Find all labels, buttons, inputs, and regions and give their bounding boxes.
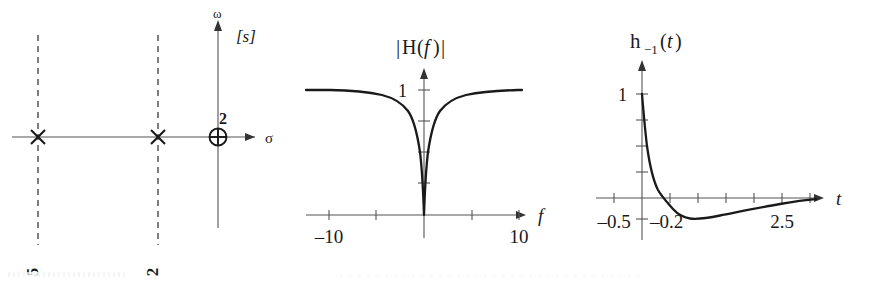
step-response-title: h −1 ( t ) [630, 29, 682, 57]
zero-marker-origin [210, 129, 227, 146]
s-plane-label: [s] [236, 27, 256, 46]
pole-label-2: 2 [143, 268, 162, 277]
magnitude-title-paren-close: ) [433, 36, 440, 59]
magnitude-title: | H ( f ) | [396, 35, 445, 59]
step-title-subscript: −1 [644, 42, 658, 57]
step-response-svg: h −1 ( t ) 1 –0.5 –0.2 2.5 t [580, 0, 873, 285]
f-tick-label-neg10: –10 [314, 226, 344, 247]
amplitude-tick-label-1: 1 [618, 85, 627, 105]
f-axis-arrowhead [516, 211, 526, 219]
figure-three-panel-signal-plots: 2 ω σ [s] 5 2 [0, 0, 873, 285]
omega-axis-label: ω [213, 6, 222, 21]
t-tick-label-neg02: –0.2 [649, 211, 683, 232]
amplitude-axis-arrowhead [638, 60, 646, 71]
pole-zero-plot: 2 ω σ [s] 5 2 [0, 0, 290, 285]
magnitude-response-plot: | H ( f ) | 1 –10 10 f [290, 0, 580, 285]
sigma-axis-arrowhead [245, 133, 255, 141]
t-tick-label-25: 2.5 [770, 211, 794, 232]
magnitude-title-paren-open: ( [417, 36, 424, 59]
step-title-h: h [630, 29, 641, 53]
step-response-plot: h −1 ( t ) 1 –0.5 –0.2 2.5 t [580, 0, 873, 285]
magnitude-title-h: H [402, 36, 416, 58]
t-axis-arrowhead [814, 194, 824, 202]
omega-axis-arrowhead [214, 20, 222, 31]
magnitude-curve [306, 90, 522, 215]
pole-zero-svg: 2 ω σ [s] 5 2 [0, 0, 290, 285]
step-response-curve [642, 94, 816, 219]
t-tick-label-neg05: –0.5 [596, 211, 630, 232]
t-axis-label: t [836, 188, 842, 209]
magnitude-ytick-label-1: 1 [398, 81, 407, 101]
scan-artifact-center [340, 274, 640, 278]
scan-artifact-left [8, 272, 128, 277]
f-tick-label-10: 10 [510, 226, 529, 247]
magnitude-axis-arrowhead [420, 68, 428, 79]
f-axis-label: f [538, 205, 546, 226]
sigma-axis-label: σ [265, 130, 273, 146]
step-title-paren-open: ( [660, 30, 667, 53]
step-title-t: t [667, 30, 673, 52]
magnitude-title-f: f [424, 36, 432, 59]
step-title-paren-close: ) [675, 30, 682, 53]
magnitude-response-svg: | H ( f ) | 1 –10 10 f [290, 0, 580, 285]
zero-multiplicity-label: 2 [219, 110, 227, 127]
magnitude-title-bar-right: | [441, 35, 445, 59]
magnitude-title-bar-left: | [396, 35, 400, 59]
